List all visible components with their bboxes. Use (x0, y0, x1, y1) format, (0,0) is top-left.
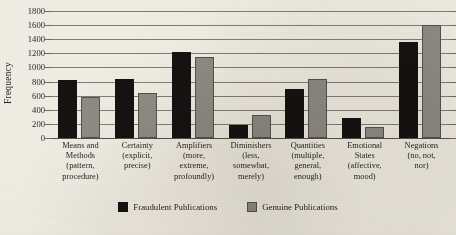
category-label-line: States (336, 151, 393, 161)
axis-tick-mark (450, 39, 456, 40)
bar (399, 42, 418, 138)
y-axis-tick-label: 800 (2, 78, 45, 87)
category-label-line: (more, (166, 151, 223, 161)
bar-group (336, 11, 393, 138)
category-label-line: Amplifiers (166, 141, 223, 151)
y-axis-tick-label: 400 (2, 106, 45, 115)
y-axis-tick-label: 1800 (2, 7, 45, 16)
bar (172, 52, 191, 138)
bar-chart: Frequency 020040060080010001200140016001… (0, 0, 456, 235)
category-label-line: Quantities (279, 141, 336, 151)
axis-tick-mark (450, 11, 456, 12)
y-axis-tick-label: 1600 (2, 21, 45, 30)
axis-tick-mark (450, 110, 456, 111)
axis-tick-mark (450, 82, 456, 83)
category-label-line: precise) (109, 161, 166, 171)
category-label-line: general, (279, 161, 336, 171)
y-axis-tick-mark (45, 67, 52, 68)
category-label-line: Negations (393, 141, 450, 151)
category-label-line: (no, not, (393, 151, 450, 161)
y-axis-tick-label: 0 (2, 134, 45, 143)
bar (422, 25, 441, 138)
y-axis-tick-mark (45, 25, 52, 26)
category-label-line: Methods (52, 151, 109, 161)
y-axis-tick-mark (45, 110, 52, 111)
y-axis-tick-mark (45, 96, 52, 97)
category-label-line: Means and (52, 141, 109, 151)
legend-swatch (247, 202, 257, 212)
category-label-line: Emotional (336, 141, 393, 151)
bar (342, 118, 361, 138)
axis-tick-mark (450, 96, 456, 97)
axis-tick-mark (450, 25, 456, 26)
y-axis-tick-mark (45, 53, 52, 54)
axis-tick-mark (450, 67, 456, 68)
y-axis-tick-mark (45, 124, 52, 125)
category-label-line: Diminishers (223, 141, 280, 151)
bar-group (52, 11, 109, 138)
category-label-line: somewhat, (223, 161, 280, 171)
legend-item: Fraudulent Publications (118, 202, 217, 212)
y-axis-tick-label: 1400 (2, 35, 45, 44)
x-axis-category-label: Diminishers(less,somewhat,merely) (223, 141, 280, 182)
y-axis-tick-label: 200 (2, 120, 45, 129)
chart-legend: Fraudulent PublicationsGenuine Publicati… (0, 202, 456, 212)
legend-label: Genuine Publications (262, 202, 338, 212)
y-axis-tick-mark (45, 82, 52, 83)
legend-label: Fraudulent Publications (133, 202, 217, 212)
bar-group (279, 11, 336, 138)
category-label-line: nor) (393, 161, 450, 171)
x-axis-category-label: Negations(no, not,nor) (393, 141, 450, 172)
bar (365, 127, 384, 138)
bar (81, 97, 100, 138)
axis-tick-mark (450, 53, 456, 54)
category-label-line: procedure) (52, 172, 109, 182)
category-label-line: Certainty (109, 141, 166, 151)
gridline (52, 138, 450, 139)
bar-group (166, 11, 223, 138)
category-label-line: (less, (223, 151, 280, 161)
x-axis-category-label: Means andMethods(pattern,procedure) (52, 141, 109, 182)
bar (195, 57, 214, 138)
x-axis-category-label: Quantities(multiple,general,enough) (279, 141, 336, 182)
y-axis-tick-label: 1200 (2, 49, 45, 58)
bar (252, 115, 271, 138)
axis-tick-mark (450, 138, 456, 139)
category-label-line: (explicit, (109, 151, 166, 161)
bar (58, 80, 77, 138)
y-axis-tick-label: 1000 (2, 63, 45, 72)
category-label-line: enough) (279, 172, 336, 182)
legend-item: Genuine Publications (247, 202, 338, 212)
x-axis-category-label: Amplifiers(more,extreme,profoundly) (166, 141, 223, 182)
y-axis-tick-mark (45, 39, 52, 40)
bar (308, 79, 327, 138)
bar (285, 89, 304, 138)
bar-group (393, 11, 450, 138)
legend-swatch (118, 202, 128, 212)
category-label-line: (affective, (336, 161, 393, 171)
bar (115, 79, 134, 138)
axis-tick-mark (450, 124, 456, 125)
y-axis-tick-mark (45, 11, 52, 12)
category-label-line: merely) (223, 172, 280, 182)
category-label-line: profoundly) (166, 172, 223, 182)
bar (229, 125, 248, 138)
y-axis-tick-mark (45, 138, 52, 139)
category-label-line: (pattern, (52, 161, 109, 171)
category-label-line: (multiple, (279, 151, 336, 161)
bar-group (223, 11, 280, 138)
plot-area (52, 11, 450, 138)
category-label-line: mood) (336, 172, 393, 182)
x-axis-category-labels: Means andMethods(pattern,procedure)Certa… (52, 141, 450, 193)
bar-group (109, 11, 166, 138)
category-label-line: extreme, (166, 161, 223, 171)
x-axis-category-label: Certainty(explicit,precise) (109, 141, 166, 172)
x-axis-category-label: EmotionalStates(affective,mood) (336, 141, 393, 182)
bar (138, 93, 157, 138)
y-axis-tick-label: 600 (2, 92, 45, 101)
